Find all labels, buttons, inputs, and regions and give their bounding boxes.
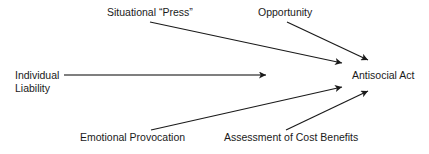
node-antisocial-act: Antisocial Act [352,69,414,82]
arrow-emotional-provocation [151,87,342,130]
node-individual-liability-line2: Liability [15,82,50,95]
node-individual-liability-line1: Individual [15,69,59,82]
node-assessment-cost-benefits: Assessment of Cost Benefits [224,131,358,144]
node-opportunity: Opportunity [258,6,312,19]
arrow-situational-press [150,22,342,63]
node-emotional-provocation: Emotional Provocation [80,131,185,144]
node-situational-press: Situational “Press” [107,6,193,19]
